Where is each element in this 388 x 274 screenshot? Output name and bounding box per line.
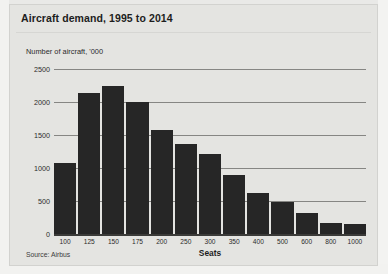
bar-slot bbox=[247, 69, 269, 234]
bar-slot bbox=[296, 69, 318, 234]
bar-slot bbox=[199, 69, 221, 234]
bar-series bbox=[54, 69, 366, 234]
y-axis-tick-label: 1500 bbox=[34, 131, 50, 140]
x-axis-tick-label: 600 bbox=[296, 238, 318, 245]
bar-slot bbox=[151, 69, 173, 234]
bar-slot bbox=[175, 69, 197, 234]
bar bbox=[344, 224, 366, 234]
bar-slot bbox=[223, 69, 245, 234]
x-axis-tick-label: 250 bbox=[175, 238, 197, 245]
bar-slot bbox=[126, 69, 148, 234]
chart-panel: Aircraft demand, 1995 to 2014 Number of … bbox=[9, 4, 378, 266]
bar bbox=[54, 163, 76, 234]
bar bbox=[223, 175, 245, 234]
bar-slot bbox=[344, 69, 366, 234]
paper-edge-left bbox=[0, 0, 9, 274]
x-axis-tick-label: 150 bbox=[102, 238, 124, 245]
y-axis-tick-label: 500 bbox=[38, 197, 50, 206]
bar-slot bbox=[54, 69, 76, 234]
x-axis-line bbox=[54, 234, 366, 236]
bar bbox=[78, 93, 100, 234]
bar-slot bbox=[320, 69, 342, 234]
x-axis-tick-label: 125 bbox=[78, 238, 100, 245]
x-axis-tick-label: 350 bbox=[223, 238, 245, 245]
y-axis-tick-label: 1000 bbox=[34, 164, 50, 173]
x-axis-tick-label: 800 bbox=[320, 238, 342, 245]
paper-edge-right bbox=[378, 0, 388, 274]
x-axis-tick-label: 175 bbox=[126, 238, 148, 245]
bar-slot bbox=[78, 69, 100, 234]
source-note: Source: Airbus bbox=[26, 251, 70, 258]
bar bbox=[199, 154, 221, 234]
bar bbox=[247, 193, 269, 234]
x-axis-tick-label: 200 bbox=[151, 238, 173, 245]
y-axis-tick-label: 2000 bbox=[34, 98, 50, 107]
bar bbox=[271, 202, 293, 234]
bar bbox=[151, 130, 173, 234]
x-axis-tick-label: 1000 bbox=[344, 238, 366, 245]
chart-header: Aircraft demand, 1995 to 2014 bbox=[10, 5, 377, 31]
header-divider bbox=[16, 32, 371, 33]
bar bbox=[102, 86, 124, 235]
x-axis-tick-label: 500 bbox=[271, 238, 293, 245]
x-axis-tick-label: 300 bbox=[199, 238, 221, 245]
bar bbox=[320, 223, 342, 234]
screenshot-page: Aircraft demand, 1995 to 2014 Number of … bbox=[0, 0, 388, 274]
x-axis-tick-label: 400 bbox=[247, 238, 269, 245]
y-axis-tick-label: 2500 bbox=[34, 65, 50, 74]
y-axis-tick-labels: 05001000150020002500 bbox=[22, 69, 50, 234]
x-axis-tick-labels: 1001251501752002503003504005006008001000 bbox=[54, 238, 366, 245]
x-axis-tick-label: 100 bbox=[54, 238, 76, 245]
x-axis-title: Seats bbox=[54, 248, 366, 258]
bar bbox=[126, 102, 148, 234]
chart-subtitle: Number of aircraft, '000 bbox=[26, 47, 103, 56]
bar-slot bbox=[271, 69, 293, 234]
bar-slot bbox=[102, 69, 124, 234]
bar bbox=[175, 144, 197, 234]
bar bbox=[296, 213, 318, 234]
y-axis-tick-label: 0 bbox=[46, 230, 50, 239]
page-title: Aircraft demand, 1995 to 2014 bbox=[21, 12, 173, 24]
plot-area bbox=[54, 69, 366, 234]
